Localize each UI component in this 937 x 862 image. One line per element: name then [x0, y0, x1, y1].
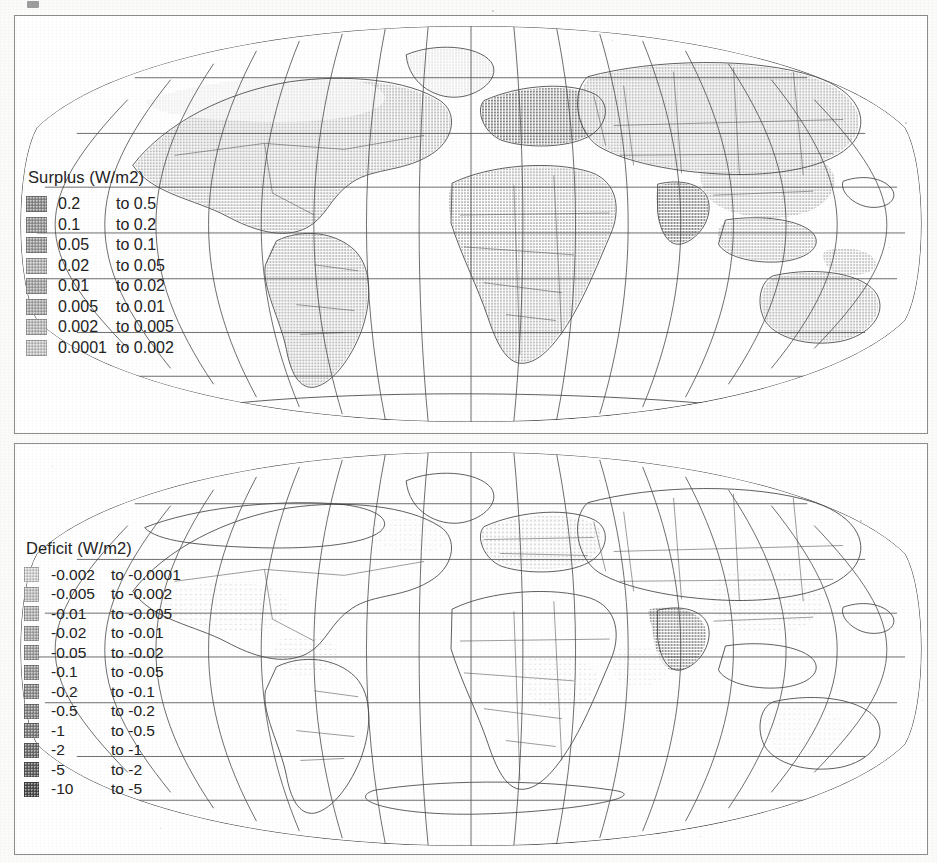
legend-high-value: to -0.002 — [111, 585, 172, 603]
legend-high-value: to 0.02 — [116, 277, 165, 295]
legend-deficit: Deficit (W/m2) -0.002 to -0.0001 -0.005 … — [24, 539, 181, 799]
legend-high-value: to -0.01 — [111, 624, 164, 642]
legend-swatch — [26, 217, 47, 233]
scan-speck — [52, 466, 53, 467]
scan-speck — [889, 247, 890, 248]
legend-low-value: 0.005 — [58, 298, 116, 316]
legend-row: -1 to -0.5 — [24, 721, 181, 741]
legend-swatch — [26, 340, 47, 356]
legend-low-value: 0.1 — [58, 216, 116, 234]
legend-row: -0.002 to -0.0001 — [24, 565, 181, 585]
legend-row: -0.5 to -0.2 — [24, 702, 181, 722]
legend-high-value: to -0.1 — [111, 683, 155, 701]
legend-row: 0.02 to 0.05 — [26, 256, 174, 277]
legend-low-value: 0.2 — [58, 195, 116, 213]
legend-row: -0.005 to -0.002 — [24, 585, 181, 605]
legend-low-value: -0.5 — [51, 702, 111, 720]
legend-low-value: -0.05 — [51, 644, 111, 662]
legend-high-value: to -5 — [111, 780, 142, 798]
legend-row: 0.0001 to 0.002 — [26, 338, 174, 359]
legend-row: -5 to -2 — [24, 760, 181, 780]
legend-deficit-title: Deficit (W/m2) — [24, 539, 181, 558]
legend-low-value: -0.2 — [51, 683, 111, 701]
legend-row: 0.2 to 0.5 — [26, 194, 174, 215]
legend-high-value: to 0.01 — [116, 298, 165, 316]
legend-low-value: -2 — [51, 741, 111, 759]
scan-speck — [300, 420, 301, 421]
legend-high-value: to -0.2 — [111, 702, 155, 720]
legend-high-value: to 0.002 — [116, 339, 174, 357]
legend-low-value: 0.05 — [58, 236, 116, 254]
legend-swatch — [24, 626, 39, 641]
legend-low-value: 0.01 — [58, 277, 116, 295]
legend-high-value: to 0.2 — [116, 216, 156, 234]
legend-row: -2 to -1 — [24, 741, 181, 761]
legend-surplus: Surplus (W/m2) 0.2 to 0.5 0.1 to 0.2 0.0… — [26, 168, 174, 358]
scan-speck — [922, 700, 923, 701]
legend-swatch — [24, 645, 39, 660]
legend-row: -10 to -5 — [24, 780, 181, 800]
legend-swatch — [26, 258, 47, 274]
legend-row: -0.01 to -0.005 — [24, 604, 181, 624]
legend-swatch — [24, 567, 39, 582]
legend-high-value: to -0.5 — [111, 722, 155, 740]
scan-artifact — [27, 1, 39, 8]
legend-swatch — [24, 782, 39, 797]
legend-swatch — [26, 237, 47, 253]
legend-swatch — [26, 196, 47, 212]
scan-speck — [860, 520, 862, 522]
legend-low-value: 0.0001 — [58, 339, 116, 357]
legend-low-value: -10 — [51, 780, 111, 798]
legend-row: -0.2 to -0.1 — [24, 682, 181, 702]
legend-row: 0.002 to 0.005 — [26, 317, 174, 338]
legend-low-value: -0.02 — [51, 624, 111, 642]
legend-swatch — [24, 665, 39, 680]
legend-row: -0.1 to -0.05 — [24, 663, 181, 683]
legend-low-value: -1 — [51, 722, 111, 740]
scan-speck — [36, 330, 37, 331]
legend-high-value: to -0.0001 — [111, 566, 181, 584]
legend-high-value: to -1 — [111, 741, 142, 759]
legend-row: 0.1 to 0.2 — [26, 215, 174, 236]
legend-deficit-rows: -0.002 to -0.0001 -0.005 to -0.002 -0.01… — [24, 565, 181, 799]
legend-swatch — [24, 684, 39, 699]
legend-swatch — [24, 762, 39, 777]
legend-swatch — [26, 278, 47, 294]
scan-speck — [160, 828, 161, 829]
legend-swatch — [24, 723, 39, 738]
legend-row: 0.01 to 0.02 — [26, 276, 174, 297]
legend-high-value: to 0.1 — [116, 236, 156, 254]
legend-row: 0.005 to 0.01 — [26, 297, 174, 318]
legend-surplus-rows: 0.2 to 0.5 0.1 to 0.2 0.05 to 0.1 0.02 t… — [26, 194, 174, 358]
scan-speck — [700, 836, 701, 837]
legend-low-value: -0.1 — [51, 663, 111, 681]
legend-low-value: -0.002 — [51, 566, 111, 584]
legend-row: -0.05 to -0.02 — [24, 643, 181, 663]
scan-speck — [492, 10, 494, 12]
legend-swatch — [24, 587, 39, 602]
legend-low-value: -5 — [51, 761, 111, 779]
scan-speck — [612, 40, 613, 41]
legend-high-value: to 0.5 — [116, 195, 156, 213]
legend-swatch — [24, 704, 39, 719]
legend-high-value: to -2 — [111, 761, 142, 779]
legend-swatch — [26, 299, 47, 315]
legend-low-value: -0.01 — [51, 605, 111, 623]
legend-low-value: -0.005 — [51, 585, 111, 603]
legend-high-value: to 0.05 — [116, 257, 165, 275]
scan-speck — [76, 690, 78, 692]
legend-row: 0.05 to 0.1 — [26, 235, 174, 256]
legend-row: -0.02 to -0.01 — [24, 624, 181, 644]
scan-speck — [905, 122, 907, 124]
legend-surplus-title: Surplus (W/m2) — [26, 168, 174, 187]
legend-high-value: to -0.005 — [111, 605, 172, 623]
legend-high-value: to -0.02 — [111, 644, 164, 662]
legend-swatch — [26, 319, 47, 335]
legend-low-value: 0.02 — [58, 257, 116, 275]
legend-high-value: to 0.005 — [116, 318, 174, 336]
legend-swatch — [24, 743, 39, 758]
legend-low-value: 0.002 — [58, 318, 116, 336]
legend-high-value: to -0.05 — [111, 663, 164, 681]
legend-swatch — [24, 606, 39, 621]
